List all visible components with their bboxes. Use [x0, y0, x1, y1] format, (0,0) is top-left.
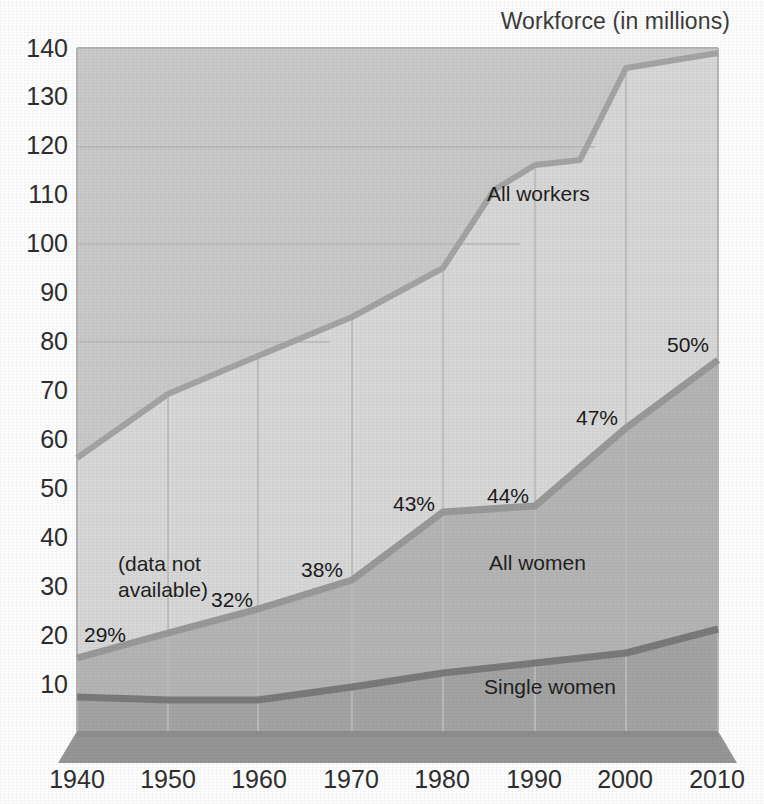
base-slab-top	[77, 731, 718, 737]
chart-title: Workforce (in millions)	[501, 8, 730, 35]
pct-label-2010: 50%	[667, 333, 709, 357]
note-data-not-available-line2: available)	[118, 578, 208, 603]
note-data-not-available-line1: (data not	[118, 552, 201, 577]
y-tick-110: 110	[14, 180, 68, 209]
y-tick-40: 40	[14, 523, 68, 552]
chart-plot-svg	[0, 0, 764, 804]
y-tick-80: 80	[14, 327, 68, 356]
pct-label-1970: 38%	[301, 558, 343, 582]
y-tick-90: 90	[14, 278, 68, 307]
x-tick-1980: 1980	[394, 765, 490, 794]
y-tick-50: 50	[14, 474, 68, 503]
y-tick-140: 140	[14, 34, 68, 63]
pct-label-2000: 47%	[576, 406, 618, 430]
x-tick-1950: 1950	[120, 765, 216, 794]
y-tick-100: 100	[14, 229, 68, 258]
y-tick-20: 20	[14, 621, 68, 650]
series-label-single-women: Single women	[484, 675, 616, 699]
pct-label-1980: 43%	[393, 492, 435, 516]
series-label-all-women: All women	[489, 551, 586, 575]
y-tick-130: 130	[14, 82, 68, 111]
y-tick-70: 70	[14, 376, 68, 405]
pct-label-1940: 29%	[84, 623, 126, 647]
y-tick-30: 30	[14, 572, 68, 601]
x-tick-2010: 2010	[669, 765, 764, 794]
pct-label-1990: 44%	[487, 484, 529, 508]
x-tick-1970: 1970	[303, 765, 399, 794]
x-tick-2000: 2000	[577, 765, 673, 794]
x-tick-1960: 1960	[211, 765, 307, 794]
x-tick-1990: 1990	[486, 765, 582, 794]
y-tick-10: 10	[14, 670, 68, 699]
series-label-all-workers: All workers	[487, 182, 590, 206]
x-tick-1940: 1940	[29, 765, 125, 794]
y-tick-120: 120	[14, 131, 68, 160]
y-tick-60: 60	[14, 425, 68, 454]
pct-label-1950: 32%	[211, 588, 253, 612]
workforce-area-chart: Workforce (in millions) 140 130 120 110 …	[0, 0, 764, 804]
